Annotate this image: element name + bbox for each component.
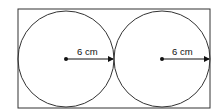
diagram-canvas: 6 cm 6 cm xyxy=(0,0,218,112)
left-radius-label: 6 cm xyxy=(77,46,98,57)
right-radius-label: 6 cm xyxy=(172,46,193,57)
